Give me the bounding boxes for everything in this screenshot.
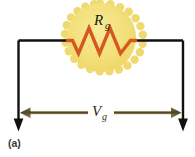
right-terminal-arrowhead (178, 119, 188, 132)
left-terminal-arrowhead (14, 119, 24, 132)
circuit-diagram-figure: R g V g (a) (0, 0, 195, 157)
circuit-diagram-canvas: R g V g (a) (0, 0, 195, 157)
resistor-label-subscript: g (105, 20, 110, 31)
voltage-label: V g (92, 103, 107, 122)
resistor-label-symbol: R (93, 12, 103, 28)
panel-label: (a) (8, 137, 21, 149)
voltage-label-subscript: g (102, 111, 107, 122)
voltage-arrowhead-left (20, 107, 31, 118)
voltage-arrowhead-right (171, 107, 182, 118)
resistor-glow-burst (61, 0, 147, 76)
